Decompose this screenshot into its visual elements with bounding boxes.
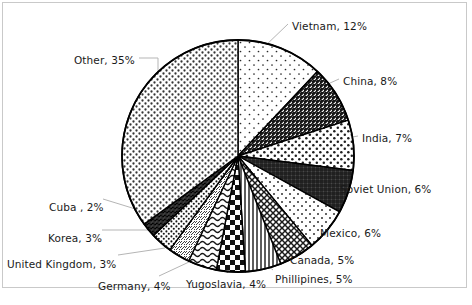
slice-label-india: India, 7%: [362, 133, 412, 144]
slice-label-soviet-union: Soviet Union, 6%: [340, 184, 431, 195]
slice-label-vietnam: Vietnam, 12%: [292, 21, 367, 32]
slice-label-phillipines: Phillipines, 5%: [275, 274, 353, 285]
slice-label-china: China, 8%: [343, 76, 397, 87]
slice-label-canada: Canada, 5%: [290, 255, 354, 266]
pie-chart-page: Vietnam, 12%China, 8%India, 7%Soviet Uni…: [0, 0, 472, 305]
leader-line-united-kingdom: [118, 248, 165, 255]
slice-label-mexico: Mexico, 6%: [320, 228, 381, 239]
slice-label-cuba: Cuba , 2%: [49, 202, 104, 213]
slice-label-united-kingdom: United Kingdom, 3%: [7, 259, 116, 270]
slice-label-korea: Korea, 3%: [48, 233, 102, 244]
slice-label-germany: Germany, 4%: [98, 281, 171, 292]
slice-label-yugoslavia: Yugoslavia, 4%: [186, 279, 266, 290]
leader-line-germany: [159, 262, 189, 276]
slice-label-other: Other, 35%: [74, 55, 135, 66]
